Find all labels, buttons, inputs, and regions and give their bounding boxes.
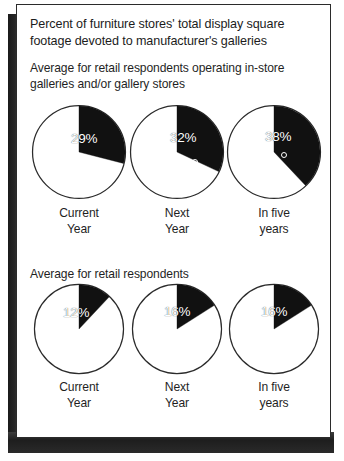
pie-cell-1-2: 16% In five years <box>224 283 324 411</box>
pie-cell-1-1: 16% Next Year <box>127 283 227 411</box>
pie-category-line1-1-1: Next <box>127 380 227 396</box>
pie-category-label-0-1: Next Year <box>127 206 227 237</box>
pie-category-line2-1-0: Year <box>29 396 129 412</box>
pie-category-label-0-2: In five years <box>224 206 324 237</box>
pie-chart-1-0: 12% <box>33 283 125 375</box>
pie-cell-0-0: 29% Current Year <box>29 104 129 237</box>
pie-chart-1-2: 16% <box>228 283 320 375</box>
pie-chart-0-1: 32% <box>129 104 225 200</box>
pie-category-line1-0-0: Current <box>29 206 129 222</box>
pie-category-label-1-2: In five years <box>224 380 324 411</box>
pie-category-line2-1-2: years <box>224 396 324 412</box>
pie-cell-1-0: 12% Current Year <box>29 283 129 411</box>
page-edge-right <box>330 4 344 444</box>
figure-title: Percent of furniture stores' total displ… <box>30 16 318 49</box>
pie-chart-1-1: 16% <box>131 283 223 375</box>
pie-category-label-1-0: Current Year <box>29 380 129 411</box>
pie-chart-0-0: 29% <box>31 104 127 200</box>
pie-category-line1-0-1: Next <box>127 206 227 222</box>
pie-chart-0-2: 38% <box>226 104 322 200</box>
group-subtitle-0: Average for retail respondents operating… <box>30 61 320 92</box>
figure-panel: Percent of furniture stores' total displ… <box>16 4 331 438</box>
pie-svg-1-1 <box>131 283 223 375</box>
pie-svg-0-2 <box>226 104 322 200</box>
pie-category-line2-0-2: years <box>224 222 324 238</box>
pie-category-label-1-1: Next Year <box>127 380 227 411</box>
pie-category-line2-0-0: Year <box>29 222 129 238</box>
pie-svg-1-0 <box>33 283 125 375</box>
pie-category-line2-0-1: Year <box>127 222 227 238</box>
pie-svg-0-0 <box>31 104 127 200</box>
pie-svg-0-1 <box>129 104 225 200</box>
pie-category-line2-1-1: Year <box>127 396 227 412</box>
scan-speck-icon <box>281 152 287 158</box>
pie-category-label-0-0: Current Year <box>29 206 129 237</box>
pie-cell-0-2: 38% In five years <box>224 104 324 237</box>
pie-category-line1-1-2: In five <box>224 380 324 396</box>
figure-page: Percent of furniture stores' total displ… <box>0 0 344 461</box>
pie-category-line1-1-0: Current <box>29 380 129 396</box>
pie-svg-1-2 <box>228 283 320 375</box>
pie-row-group-0: 29% Current Year 32% Next <box>17 104 332 249</box>
group-subtitle-1: Average for retail respondents <box>30 267 320 283</box>
pie-category-line1-0-2: In five <box>224 206 324 222</box>
scan-speck-icon <box>192 159 198 165</box>
pie-cell-0-1: 32% Next Year <box>127 104 227 237</box>
pie-row-group-1: 12% Current Year 16% Next Year <box>17 283 332 428</box>
